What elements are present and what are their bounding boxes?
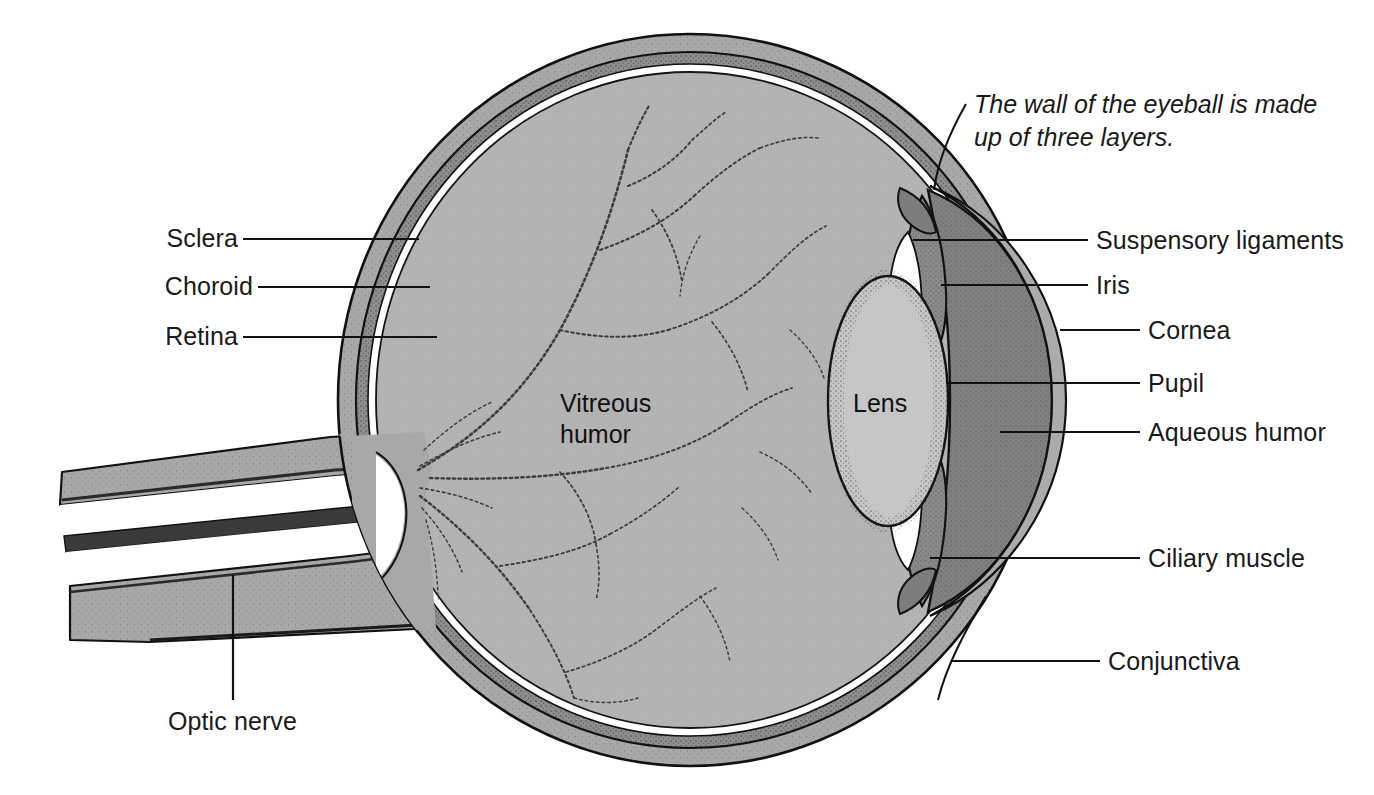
label-choroid: Choroid xyxy=(62,272,253,301)
label-cornea: Cornea xyxy=(1148,316,1231,345)
label-ciliary-muscle: Ciliary muscle xyxy=(1148,544,1305,573)
label-retina: Retina xyxy=(62,322,238,351)
label-iris: Iris xyxy=(1096,271,1130,300)
figure-caption: The wall of the eyeball is made up of th… xyxy=(974,88,1354,154)
label-vitreous-humor: Vitreous humor xyxy=(560,388,720,449)
eye-anatomy-figure: Sclera Choroid Retina Optic nerve Suspen… xyxy=(0,0,1374,795)
label-conjunctiva: Conjunctiva xyxy=(1108,647,1240,676)
label-aqueous-humor: Aqueous humor xyxy=(1148,418,1326,447)
label-sclera: Sclera xyxy=(62,224,238,253)
label-lens: Lens xyxy=(853,388,933,419)
label-suspensory-ligaments: Suspensory ligaments xyxy=(1096,226,1344,255)
label-pupil: Pupil xyxy=(1148,369,1204,398)
label-optic-nerve: Optic nerve xyxy=(168,707,297,736)
